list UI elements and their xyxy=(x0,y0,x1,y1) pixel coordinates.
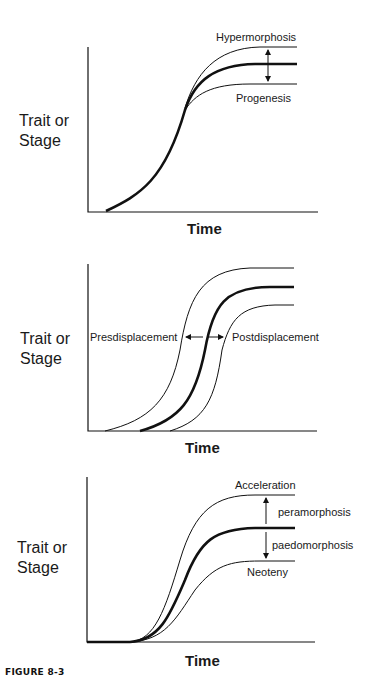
ylabel-line1: Trait or xyxy=(19,111,69,131)
hypermorphosis-label: Hypermorphosis xyxy=(216,31,296,43)
progenesis-label: Progenesis xyxy=(236,92,291,104)
presdisplacement-label: Presdisplacement xyxy=(90,331,177,343)
panel-1-ylabel: Trait or Stage xyxy=(19,111,69,151)
panel-3-chart xyxy=(87,477,315,642)
ancestral-curve-3 xyxy=(87,528,295,642)
panel-3-ylabel: Trait or Stage xyxy=(17,538,67,578)
figure-caption: FIGURE 8-3 xyxy=(5,667,65,677)
ylabel-line1: Trait or xyxy=(20,329,70,349)
panel-2-xlabel: Time xyxy=(185,439,220,456)
postdisplacement-label: Postdisplacement xyxy=(232,331,319,343)
ylabel-line1: Trait or xyxy=(17,538,67,558)
peramorphosis-label: peramorphosis xyxy=(278,506,351,518)
ancestral-curve-1 xyxy=(106,64,297,211)
panel-3-axes xyxy=(87,477,315,642)
panel-3-xlabel: Time xyxy=(185,652,220,669)
postdisplacement-curve xyxy=(170,305,294,431)
paedomorphosis-label: paedomorphosis xyxy=(272,539,353,551)
acceleration-label: Acceleration xyxy=(235,479,296,491)
panel-1-chart xyxy=(88,47,318,212)
panel-1-xlabel: Time xyxy=(187,220,222,237)
presdisplacement-curve xyxy=(105,268,294,431)
ylabel-line2: Stage xyxy=(20,349,70,369)
ylabel-line2: Stage xyxy=(17,558,67,578)
panel-2-axes xyxy=(88,264,317,431)
panel-2-chart xyxy=(88,264,317,431)
ylabel-line2: Stage xyxy=(19,131,69,151)
panel-2-ylabel: Trait or Stage xyxy=(20,329,70,369)
neoteny-label: Neoteny xyxy=(247,566,288,578)
ancestral-curve-2 xyxy=(140,287,294,431)
